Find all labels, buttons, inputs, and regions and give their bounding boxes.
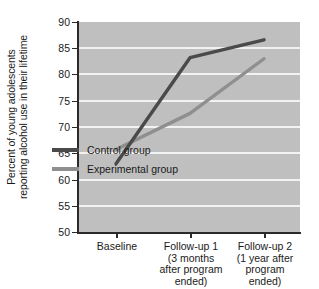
y-tick-label: 70 bbox=[44, 122, 70, 132]
legend: Control group Experimental group bbox=[52, 140, 217, 178]
x-label-followup-2-sub-2: program bbox=[219, 264, 311, 276]
y-tick-label: 90 bbox=[44, 17, 70, 27]
x-label-followup-2: Follow-up 2 (1 year after program ended) bbox=[219, 241, 311, 287]
y-axis-title-line-2: reporting alcohol use in their lifetime bbox=[17, 35, 30, 199]
legend-item-experimental: Experimental group bbox=[52, 159, 217, 178]
y-axis-title-line-1: Percent of young adolescents bbox=[5, 49, 18, 185]
series-layer bbox=[79, 22, 300, 232]
legend-item-control: Control group bbox=[52, 140, 217, 159]
x-label-followup-2-sub-3: ended) bbox=[219, 276, 311, 288]
x-label-followup-2-main: Follow-up 2 bbox=[219, 241, 311, 253]
x-tick-mark bbox=[116, 233, 118, 238]
y-axis-title: Percent of young adolescents reporting a… bbox=[2, 0, 32, 234]
y-tick-label: 85 bbox=[44, 43, 70, 53]
series-line-experimental bbox=[116, 59, 264, 150]
y-tick-label: 50 bbox=[44, 227, 70, 237]
x-axis-line bbox=[77, 232, 301, 234]
x-tick-mark bbox=[264, 233, 266, 238]
legend-swatch-control bbox=[52, 148, 79, 152]
y-tick-label: 80 bbox=[44, 69, 70, 79]
plot-area bbox=[79, 22, 300, 232]
y-tick-label: 75 bbox=[44, 96, 70, 106]
legend-label-experimental: Experimental group bbox=[87, 163, 178, 175]
x-tick-mark bbox=[190, 233, 192, 238]
y-tick-label: 55 bbox=[44, 201, 70, 211]
legend-label-control: Control group bbox=[87, 144, 151, 156]
line-chart: Percent of young adolescents reporting a… bbox=[0, 0, 319, 289]
legend-swatch-experimental bbox=[52, 167, 79, 171]
